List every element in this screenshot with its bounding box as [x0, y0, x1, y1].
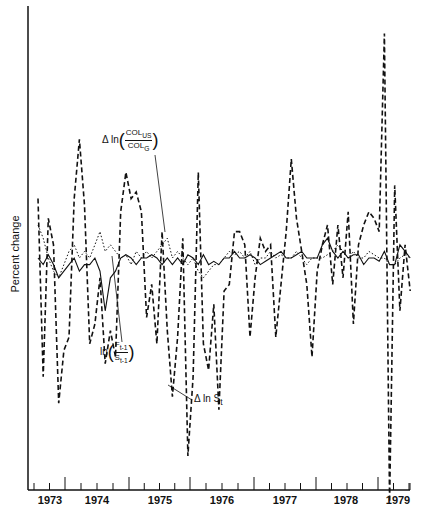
- series-dashed: [38, 34, 410, 503]
- col-us: COL: [126, 128, 142, 137]
- annotation-dlns: Δ ln St: [194, 393, 222, 407]
- fs-fraction: Ft-1St-1: [114, 340, 129, 364]
- series-group: [38, 34, 410, 503]
- leader-dlns: [168, 385, 192, 400]
- s-sub: t-1: [120, 356, 128, 363]
- ln-text: ln: [111, 134, 119, 145]
- annotation-col-ratio: Δ ln(COLUSCOLG): [102, 128, 158, 152]
- x-tick-label-1976: 1976: [210, 494, 234, 506]
- x-tick-label-1979: 1979: [386, 494, 410, 506]
- y-axis-label: Percent change: [9, 209, 21, 299]
- ln-text: ln: [100, 346, 108, 357]
- f-sub: t-1: [120, 344, 128, 351]
- annotation-forward-ratio: ln(Ft-1St-1): [100, 340, 134, 364]
- x-tick-label-1978: 1978: [334, 494, 358, 506]
- dlns-sub: t: [220, 397, 222, 407]
- x-tick-label-1977: 1977: [273, 494, 297, 506]
- paren-close: ): [152, 130, 158, 150]
- x-axis-ticks: [34, 477, 410, 490]
- leader-col: [155, 155, 165, 232]
- col-g: COL: [128, 141, 144, 150]
- col-g-sub: G: [144, 144, 149, 151]
- series-dotted: [38, 225, 410, 278]
- paren-close: ): [128, 342, 134, 362]
- col-fraction: COLUSCOLG: [125, 128, 153, 152]
- col-us-sub: US: [142, 132, 151, 139]
- line-chart: [0, 0, 422, 512]
- delta-symbol: Δ: [102, 134, 108, 145]
- x-tick-label-1974: 1974: [85, 494, 109, 506]
- x-tick-label-1975: 1975: [148, 494, 172, 506]
- x-tick-label-1973: 1973: [38, 494, 62, 506]
- dlns-text: Δ ln S: [194, 393, 220, 404]
